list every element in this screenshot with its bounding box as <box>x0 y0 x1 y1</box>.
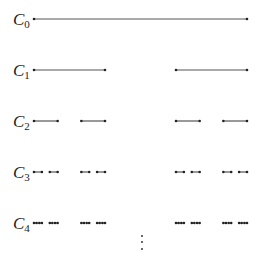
endpoint-dot <box>190 222 193 225</box>
endpoint-dot <box>246 171 249 174</box>
endpoint-dot <box>225 222 228 225</box>
endpoint-dot <box>33 18 36 21</box>
cantor-set-diagram: C0 C1 C2 C3 C4 <box>0 0 261 262</box>
endpoint-dot <box>48 171 51 174</box>
endpoint-dot <box>183 171 186 174</box>
endpoint-dot <box>80 120 83 123</box>
level-c0-segments <box>33 18 249 21</box>
endpoint-dot <box>88 222 91 225</box>
endpoint-dot <box>180 222 183 225</box>
endpoint-dot <box>238 171 241 174</box>
endpoint-dot <box>88 171 91 174</box>
endpoint-dot <box>41 222 44 225</box>
endpoint-dot <box>193 222 196 225</box>
endpoint-dot <box>198 120 201 123</box>
endpoint-dot <box>238 222 241 225</box>
endpoint-dot <box>83 222 86 225</box>
endpoint-dot <box>54 222 57 225</box>
endpoint-dot <box>35 222 38 225</box>
endpoint-dot <box>183 222 186 225</box>
endpoint-dot <box>222 222 225 225</box>
endpoint-dot <box>175 69 178 72</box>
endpoint-dot <box>98 222 101 225</box>
endpoint-dot <box>85 222 88 225</box>
endpoint-dot <box>227 222 230 225</box>
endpoint-dot <box>230 222 233 225</box>
endpoint-dot <box>33 222 36 225</box>
endpoint-dot <box>246 18 249 21</box>
endpoint-dot <box>175 120 178 123</box>
level-c1-segments <box>33 69 249 72</box>
endpoint-dot <box>104 120 107 123</box>
level-c2-segments <box>33 120 249 123</box>
vertical-ellipsis-icon <box>141 235 143 250</box>
endpoint-dot <box>198 171 201 174</box>
endpoint-dot <box>246 120 249 123</box>
endpoint-dot <box>48 222 51 225</box>
endpoint-dot <box>33 69 36 72</box>
endpoint-dot <box>33 120 36 123</box>
endpoint-dot <box>175 171 178 174</box>
level-c4-segments <box>33 222 249 225</box>
level-c3-segments <box>33 171 249 174</box>
endpoint-dot <box>198 222 201 225</box>
endpoint-dot <box>56 222 59 225</box>
endpoint-dot <box>104 222 107 225</box>
cantor-segments <box>0 0 261 262</box>
endpoint-dot <box>51 222 54 225</box>
endpoint-dot <box>246 69 249 72</box>
endpoint-dot <box>33 171 36 174</box>
endpoint-dot <box>177 222 180 225</box>
endpoint-dot <box>56 171 59 174</box>
endpoint-dot <box>243 222 246 225</box>
endpoint-dot <box>196 222 199 225</box>
endpoint-dot <box>41 171 44 174</box>
endpoint-dot <box>190 171 193 174</box>
endpoint-dot <box>104 171 107 174</box>
endpoint-dot <box>175 222 178 225</box>
endpoint-dot <box>80 222 83 225</box>
endpoint-dot <box>80 171 83 174</box>
endpoint-dot <box>38 222 41 225</box>
endpoint-dot <box>240 222 243 225</box>
endpoint-dot <box>101 222 104 225</box>
endpoint-dot <box>96 171 99 174</box>
endpoint-dot <box>246 222 249 225</box>
endpoint-dot <box>222 171 225 174</box>
endpoint-dot <box>56 120 59 123</box>
endpoint-dot <box>230 171 233 174</box>
endpoint-dot <box>222 120 225 123</box>
endpoint-dot <box>96 222 99 225</box>
endpoint-dot <box>104 69 107 72</box>
